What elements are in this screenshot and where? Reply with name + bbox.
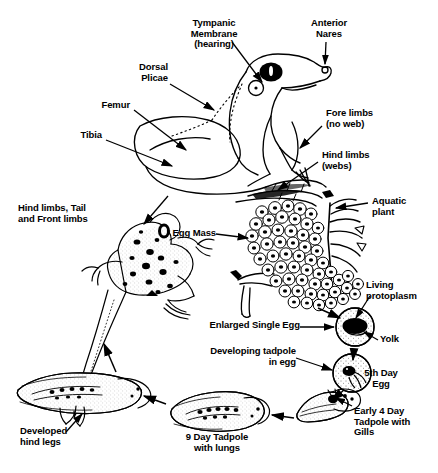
label-5th-day-egg: 5th Day Egg — [352, 368, 410, 389]
label-dorsal-plicae: Dorsal Plicae — [94, 62, 168, 83]
egg-cluster — [246, 200, 364, 311]
nostril-icon — [322, 67, 328, 73]
label-froglet-stage: Hind limbs, Tail and Front limbs — [18, 203, 150, 224]
arrow-egg-to-5day — [353, 349, 354, 360]
developed-hindlegs-tadpole-illustration — [17, 373, 150, 426]
label-developing-tadpole: Developing tadpole in egg — [178, 346, 296, 367]
enlarged-single-egg-illustration — [336, 308, 374, 346]
label-fore-limbs: Fore limbs (no web) — [326, 108, 418, 129]
leader-aquatic-plant — [336, 203, 368, 208]
nine-day-tadpole-illustration — [171, 392, 270, 432]
leader-nares — [325, 42, 326, 64]
leader-dorsal-plicae — [170, 84, 214, 110]
label-9-day-tadpole: 9 Day Tadpole with lungs — [164, 432, 270, 453]
arrow-hindlegs-to-froglet — [104, 344, 116, 372]
label-aquatic-plant: Aquatic plant — [372, 196, 434, 217]
label-femur: Femur — [68, 100, 130, 111]
label-tympanic-membrane: Tympanic Membrane (hearing) — [168, 18, 260, 50]
label-anterior-nares: Anterior Nares — [292, 18, 366, 39]
label-developed-hind-legs: Developed hind legs — [20, 426, 98, 447]
label-enlarged-single-egg: Enlarged Single Egg — [178, 320, 300, 331]
arrow-tadpole-to-9day — [272, 415, 294, 418]
label-yolk: Yolk — [380, 334, 420, 345]
leader-developing-tadpole — [296, 358, 332, 370]
label-living-protoplasm: Living protoplasm — [366, 280, 438, 301]
label-tibia: Tibia — [48, 130, 102, 141]
diagram-artwork — [0, 0, 438, 473]
label-egg-mass: Egg Mass — [146, 228, 216, 239]
label-early-tadpole-gills: Early 4 Day Tadpole with Gills — [354, 406, 438, 438]
leader-egg-mass — [216, 234, 248, 238]
arrow-eggmass-to-egg — [318, 308, 340, 318]
label-hind-limbs: Hind limbs (webs) — [322, 150, 418, 171]
egg-mass-illustration — [230, 190, 366, 317]
frog-lifecycle-diagram: Tympanic Membrane (hearing) Anterior Nar… — [0, 0, 438, 473]
leader-fore-limbs — [300, 126, 322, 148]
